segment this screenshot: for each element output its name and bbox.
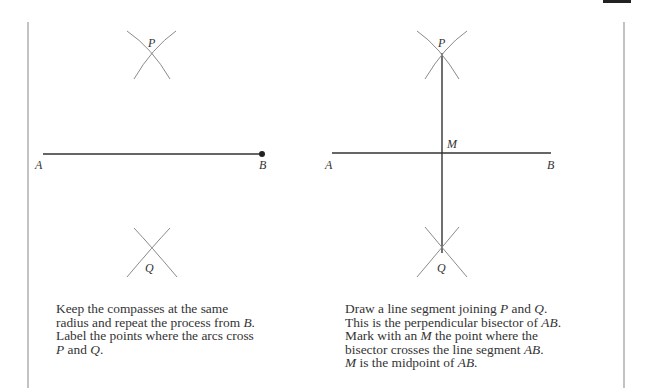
point-b-dot [259,151,265,157]
caption-text: . [540,342,543,357]
caption-text: . [100,342,103,357]
label-q: Q [437,261,446,275]
arc-p-2 [425,31,467,79]
caption-text: and [64,342,90,357]
caption-text: . [558,315,561,330]
label-m: M [446,137,458,151]
caption-line: M is the midpoint of AB. [345,356,580,370]
caption-line: Keep the compasses at the same [56,302,271,316]
left-caption: Keep the compasses at the same radius an… [56,302,271,356]
corner-tab [603,0,631,3]
caption-line: Mark with an M the point where the [345,329,580,343]
right-panel-diagram: A B P M Q [324,31,555,277]
label-p: P [437,36,446,50]
caption-italic: AB [458,355,474,370]
arc-q-1 [134,228,177,277]
caption-italic: Q [90,342,100,357]
label-a: A [324,158,333,172]
caption-line: radius and repeat the process from B. [56,316,271,330]
caption-line: Label the points where the arcs cross [56,329,271,343]
caption-line: This is the perpendicular bisector of AB… [345,316,580,330]
label-p: P [147,36,156,50]
caption-line: bisector crosses the line segment AB. [345,343,580,357]
caption-italic: AB [524,342,540,357]
left-panel-diagram: A B P Q [34,31,267,277]
arc-q-1 [425,227,467,277]
caption-text: is the midpoint of [356,355,458,370]
caption-text: . [474,355,477,370]
label-a: A [34,158,43,172]
caption-line: P and Q. [56,343,271,357]
label-b: B [259,158,267,172]
caption-italic: P [56,342,64,357]
caption-italic: M [345,355,356,370]
caption-italic: AB [541,315,557,330]
label-b: B [547,158,555,172]
right-caption: Draw a line segment joining P and Q. Thi… [345,302,580,370]
caption-line: Draw a line segment joining P and Q. [345,302,580,316]
label-q: Q [145,261,154,275]
